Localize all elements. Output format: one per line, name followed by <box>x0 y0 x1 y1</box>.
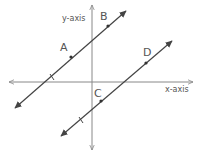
line-cd <box>61 41 172 136</box>
point-c-label: C <box>94 87 102 100</box>
point-d-label: D <box>143 46 151 59</box>
y-axis-label: y-axis <box>62 14 86 23</box>
point-d <box>144 61 147 64</box>
point-a-label: A <box>60 41 68 54</box>
coordinate-plane-diagram: y-axis x-axis A B C D <box>0 0 206 154</box>
point-a <box>69 55 72 58</box>
x-axis-label: x-axis <box>165 85 189 94</box>
point-b-label: B <box>100 10 108 23</box>
point-b <box>106 24 109 27</box>
